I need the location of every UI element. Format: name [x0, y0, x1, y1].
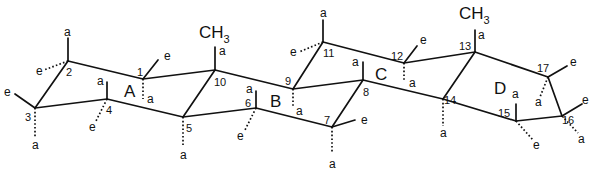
axial-label: a [352, 55, 359, 69]
atom-number-7: 7 [324, 114, 330, 126]
atom-number-1: 1 [137, 66, 143, 78]
axial-label: a [578, 132, 585, 146]
diagram-drawing: ABCD 1234567891011121314151617 aeeaeaaea… [0, 0, 596, 173]
axial-label: a [296, 104, 303, 118]
axial-label: a [512, 87, 519, 101]
atom-number-2: 2 [66, 66, 72, 78]
axial-label: a [246, 82, 253, 96]
equatorial-label: e [582, 93, 589, 107]
ring-label-d: D [494, 79, 506, 98]
methyl-group-labels: CH3CH3 [199, 4, 490, 45]
equatorial-label: e [533, 138, 540, 152]
atom-number-5: 5 [186, 122, 192, 134]
atom-number-17: 17 [537, 62, 549, 74]
equatorial-label: e [237, 129, 244, 143]
axial-label: a [409, 76, 416, 90]
atom-number-10: 10 [214, 76, 226, 88]
axial-label: a [535, 95, 542, 109]
axial-label: a [440, 126, 447, 140]
atom-number-11: 11 [323, 47, 334, 59]
atom-number-16: 16 [562, 114, 574, 126]
axial-label: a [478, 28, 485, 42]
steroid-conformation-diagram: ABCD 1234567891011121314151617 aeeaeaaea… [0, 0, 596, 173]
axial-label: a [329, 157, 336, 171]
equatorial-label: e [4, 85, 11, 99]
equatorial-label: e [164, 49, 171, 63]
atom-number-8: 8 [363, 86, 369, 98]
equatorial-label: e [570, 55, 577, 69]
atom-number-12: 12 [391, 50, 403, 62]
atom-number-6: 6 [245, 97, 251, 109]
axial-label: a [320, 6, 327, 20]
equatorial-label: e [36, 64, 43, 78]
axial-label: a [219, 44, 226, 58]
methyl-group-label: CH3 [459, 4, 490, 26]
axial-label: a [180, 148, 187, 162]
axial-label: a [97, 74, 104, 88]
ring-label-c: C [375, 65, 387, 84]
atom-number-13: 13 [459, 40, 471, 52]
ring-label-b: B [270, 92, 281, 111]
equatorial-label: e [290, 45, 297, 59]
equatorial-label: e [89, 120, 96, 134]
axial-label: a [32, 138, 39, 152]
equatorial-label: e [420, 33, 427, 47]
atom-number-15: 15 [498, 107, 510, 119]
equatorial-label: e [361, 113, 368, 127]
atom-number-3: 3 [25, 111, 31, 123]
atom-number-4: 4 [106, 104, 112, 116]
axial-label: a [64, 25, 71, 39]
methyl-group-label: CH3 [199, 23, 230, 45]
axial-label: a [147, 92, 154, 106]
atom-number-9: 9 [285, 75, 291, 87]
ring-label-a: A [124, 82, 136, 101]
atom-number-14: 14 [444, 94, 456, 106]
